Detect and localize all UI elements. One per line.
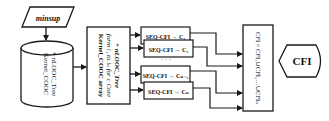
- minsup-input-node: minsup: [22, 7, 74, 27]
- arrow-worker-1-to-merge: [190, 33, 242, 54]
- arrow-worker-n-to-merge: [193, 88, 242, 108]
- worker-label-1: SEQ-CFI → C₁: [146, 34, 186, 40]
- worker-label-2: SEQ-CFI → C₂: [149, 47, 189, 53]
- partition-label-line2: form i₁ to iₙ for c Core: [105, 34, 113, 97]
- partition-label-line3: + nLOOC_Tree: [113, 43, 121, 88]
- worker-label-n-1: SEQ-CFI → Cₙ₋₁: [143, 73, 189, 79]
- worker-node-2: SEQ-CFI → C₂: [144, 40, 193, 57]
- worker-node-n-1: SEQ-CFI → Cₙ₋₁: [141, 66, 190, 83]
- output-label: CFI: [293, 55, 312, 67]
- partition-node: Kernel_COOC array form i₁ to iₙ for c Co…: [87, 27, 130, 104]
- database-label-line2: + nLOOC_Tree: [50, 52, 58, 96]
- merge-label: CFI = CFI₁∪CFI₂…∪CFIₙ: [255, 32, 262, 104]
- database-cylinder-node: Kernel_COOC + nLOOC_Tree: [21, 41, 73, 107]
- partition-label-line1: Kernel_COOC array: [97, 34, 105, 98]
- output-cfi-node: CFI: [279, 45, 321, 77]
- arrow-worker-2-to-merge: [193, 47, 242, 66]
- workers-ellipsis: · · ·: [161, 56, 172, 64]
- merge-node: CFI = CFI₁∪CFI₂…∪CFIₙ: [243, 25, 273, 111]
- arrow-worker-n-1-to-merge: [190, 71, 242, 93]
- worker-label-n: SEQ-CFI → Cₙ: [148, 89, 189, 95]
- minsup-label: minsup: [36, 14, 60, 23]
- diagram-canvas: minsup Kernel_COOC + nLOOC_Tree Kernel_C…: [0, 0, 329, 121]
- worker-node-n: SEQ-CFI → Cₙ: [144, 82, 193, 99]
- database-label-line1: Kernel_COOC: [42, 53, 50, 95]
